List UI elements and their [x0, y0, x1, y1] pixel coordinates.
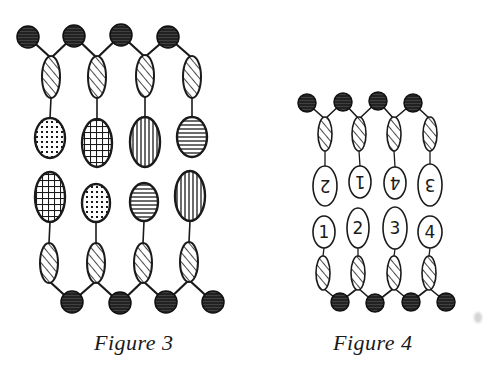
- hatched-tail-ellipse-icon: [318, 117, 332, 151]
- head-group-ball-icon: [437, 293, 455, 311]
- group-number-label: 4: [425, 222, 436, 242]
- head-group-ball-icon: [155, 291, 177, 313]
- figure-4-caption: Figure 4: [333, 330, 413, 356]
- patterned-group-ellipse-grid-icon: [82, 119, 112, 167]
- head-group-ball-icon: [334, 93, 352, 111]
- hatched-tail-ellipse-icon: [387, 117, 401, 151]
- diagram-canvas: 21431234 Figure 3 Figure 4: [0, 0, 493, 365]
- group-number-label: 1: [319, 222, 330, 242]
- group-number-label: 3: [390, 218, 401, 238]
- head-group-ball-icon: [369, 92, 387, 110]
- head-group-ball-icon: [61, 291, 83, 313]
- bond-line: [143, 221, 144, 243]
- head-group-ball-icon: [202, 291, 224, 313]
- patterned-group-ellipse-grid-icon: [35, 172, 65, 222]
- hatched-tail-ellipse-icon: [180, 242, 198, 282]
- bond-line: [49, 222, 50, 243]
- patterned-group-ellipse-horizontal-icon: [177, 117, 207, 157]
- bond-line: [189, 221, 190, 242]
- head-group-ball-icon: [109, 292, 131, 314]
- hatched-tail-ellipse-icon: [40, 243, 58, 283]
- hatched-tail-ellipse-icon: [134, 243, 152, 283]
- bond-line: [394, 249, 395, 256]
- patterned-group-ellipse-vertical-icon: [175, 171, 205, 221]
- bond-line: [394, 151, 395, 167]
- hatched-tail-ellipse-icon: [422, 256, 436, 290]
- hatched-tail-ellipse-icon: [87, 243, 105, 283]
- head-group-ball-icon: [157, 26, 179, 48]
- patterned-group-ellipse-dots-icon: [82, 184, 110, 222]
- molecule-shapes: 21431234: [17, 24, 455, 314]
- hatched-tail-ellipse-icon: [387, 256, 401, 290]
- group-number-label: 2: [353, 218, 364, 238]
- hatched-tail-ellipse-icon: [351, 256, 365, 290]
- bond-line: [50, 98, 51, 118]
- figure-3-caption: Figure 3: [94, 330, 174, 356]
- head-group-ball-icon: [17, 26, 39, 48]
- head-group-ball-icon: [331, 293, 349, 311]
- head-group-ball-icon: [63, 25, 85, 47]
- hatched-tail-ellipse-icon: [423, 117, 437, 151]
- head-group-ball-icon: [366, 294, 384, 312]
- bond-line: [359, 151, 360, 166]
- group-number-label: 1: [355, 172, 366, 192]
- patterned-group-ellipse-dots-icon: [35, 118, 65, 158]
- hatched-tail-ellipse-icon: [42, 56, 60, 98]
- scan-smudge: [474, 312, 482, 323]
- bond-line: [429, 248, 430, 256]
- hatched-tail-ellipse-icon: [88, 56, 106, 98]
- hatched-tail-ellipse-icon: [183, 56, 201, 98]
- patterned-group-ellipse-horizontal-icon: [130, 183, 158, 221]
- hatched-tail-ellipse-icon: [136, 55, 154, 97]
- hatched-tail-ellipse-icon: [352, 117, 366, 151]
- head-group-ball-icon: [402, 293, 420, 311]
- group-number-label: 3: [425, 175, 436, 195]
- head-group-ball-icon: [404, 94, 422, 112]
- group-number-label: 2: [320, 176, 331, 196]
- head-group-ball-icon: [110, 24, 132, 46]
- hatched-tail-ellipse-icon: [316, 256, 330, 290]
- molecular-bilayer-diagram: 21431234: [0, 0, 493, 365]
- bond-line: [323, 248, 324, 256]
- group-number-label: 4: [390, 173, 401, 193]
- patterned-group-ellipse-vertical-icon: [130, 117, 160, 167]
- head-group-ball-icon: [298, 94, 316, 112]
